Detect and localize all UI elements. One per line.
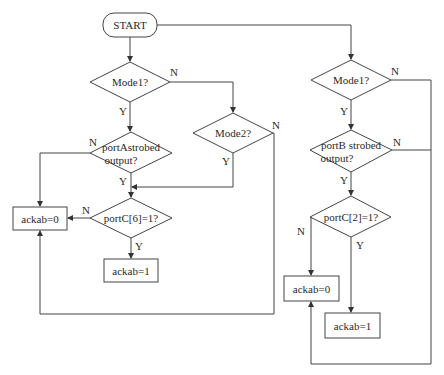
left-ackab1-label: ackab=1 (104, 265, 158, 277)
right-mode1-no-label: N (391, 66, 399, 77)
right-mode1-label: Mode1? (321, 74, 381, 86)
mode2-yes-label: Y (222, 156, 230, 167)
right-portb-yes-label: Y (340, 175, 348, 186)
right-portc-label: portC[2]=1? (316, 211, 386, 223)
left-ackab0-label: ackab=0 (13, 213, 67, 225)
right-mode1-yes-label: Y (340, 106, 348, 117)
left-portc-no-label: N (82, 205, 90, 216)
mode2-label: Mode2? (203, 127, 263, 139)
right-ackab1-label: ackab=1 (325, 320, 380, 332)
start-label: START (103, 19, 157, 31)
left-porta-yes-label: Y (119, 176, 127, 187)
left-mode1-yes-label: Y (119, 106, 127, 117)
right-portc-yes-label: Y (356, 240, 364, 251)
left-porta-label-2: output? (96, 154, 146, 166)
right-portb-decision (310, 130, 392, 172)
mode2-no-label: N (272, 120, 280, 131)
right-portb-label-2: output? (312, 152, 362, 164)
flowchart-canvas (0, 0, 444, 375)
right-ackab0-label: ackab=0 (284, 283, 339, 295)
left-porta-no-label: N (89, 137, 97, 148)
left-mode1-label: Mode1? (100, 76, 160, 88)
right-portb-label-1: portB strobed (316, 139, 386, 151)
left-portc-yes-label: Y (135, 241, 143, 252)
right-portc-no-label: N (297, 226, 305, 237)
left-porta-label-1: portAstrobed (101, 141, 161, 153)
left-mode1-no-label: N (170, 67, 178, 78)
left-portc-label: portC[6]=1? (96, 212, 166, 224)
right-portb-no-label: N (393, 137, 401, 148)
